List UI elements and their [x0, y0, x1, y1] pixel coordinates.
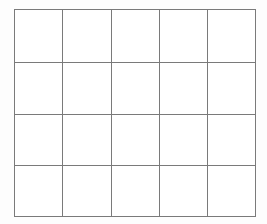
- grid-body: [15, 10, 256, 217]
- grid-row: [15, 10, 256, 63]
- grid-cell-r1c1[interactable]: [15, 10, 63, 63]
- grid-cell-r3c4[interactable]: [160, 115, 208, 166]
- grid-cell-r1c4[interactable]: [160, 10, 208, 63]
- grid-cell-r3c1[interactable]: [15, 115, 63, 166]
- grid-cell-r2c1[interactable]: [15, 63, 63, 115]
- grid-canvas: [0, 0, 267, 224]
- grid-cell-r4c4[interactable]: [160, 166, 208, 217]
- grid-cell-r2c4[interactable]: [160, 63, 208, 115]
- grid-cell-r4c5[interactable]: [208, 166, 256, 217]
- grid-cell-r1c5[interactable]: [208, 10, 256, 63]
- grid-cell-r4c2[interactable]: [63, 166, 112, 217]
- grid-row: [15, 115, 256, 166]
- grid-row: [15, 166, 256, 217]
- grid-cell-r4c1[interactable]: [15, 166, 63, 217]
- grid-cell-r3c3[interactable]: [112, 115, 160, 166]
- grid-cell-r3c5[interactable]: [208, 115, 256, 166]
- grid-row: [15, 63, 256, 115]
- grid-cell-r1c2[interactable]: [63, 10, 112, 63]
- grid-cell-r2c5[interactable]: [208, 63, 256, 115]
- grid-cell-r4c3[interactable]: [112, 166, 160, 217]
- grid-cell-r2c3[interactable]: [112, 63, 160, 115]
- grid-cell-r2c2[interactable]: [63, 63, 112, 115]
- grid-cell-r3c2[interactable]: [63, 115, 112, 166]
- grid-table: [14, 9, 256, 217]
- grid-cell-r1c3[interactable]: [112, 10, 160, 63]
